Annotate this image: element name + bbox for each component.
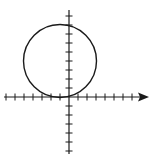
axes [4, 10, 142, 154]
circle-shape [24, 25, 97, 98]
coordinate-plane [0, 0, 150, 160]
